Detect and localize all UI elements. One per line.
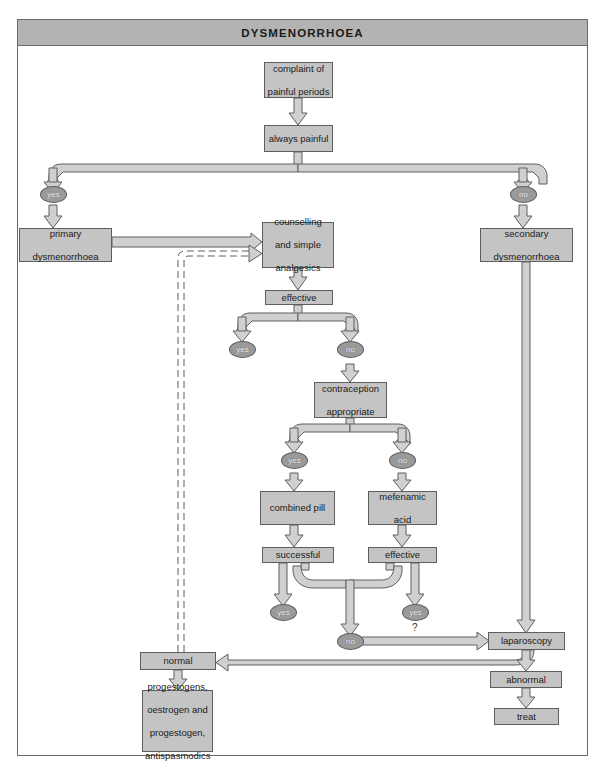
node-primary-dysmenorrhoea[interactable]: primarydysmenorrhoea [19, 228, 112, 262]
pill-no-merged[interactable]: no [337, 633, 364, 650]
contraception-line-2: appropriate [317, 406, 384, 418]
node-treat[interactable]: treat [494, 708, 559, 725]
prog-line-1: progestogens, [145, 681, 210, 693]
pill-yes-contraception-label: yes [288, 456, 300, 465]
effective1-label: effective [268, 292, 330, 304]
effective2-label: effective [371, 549, 434, 561]
complaint-line-1: complaint of [267, 63, 330, 75]
node-laparoscopy[interactable]: laparoscopy [488, 632, 565, 650]
pill-no-effective1[interactable]: no [337, 341, 364, 358]
pill-yes-always[interactable]: yes [40, 186, 67, 203]
prog-line-2: oestrogen and [145, 704, 210, 716]
normal-label: normal [143, 655, 213, 667]
contraception-line-1: contraception [317, 383, 384, 395]
question-mark-label: ? [412, 622, 418, 633]
node-complaint[interactable]: complaint ofpainful periods [264, 62, 333, 98]
pill-no-always[interactable]: no [510, 186, 537, 203]
node-successful[interactable]: successful [262, 547, 334, 563]
primary-line-2: dysmenorrhoea [22, 251, 109, 263]
pill-no-merged-label: no [346, 637, 355, 646]
always-painful-label: always painful [267, 133, 330, 145]
pill-yes-always-label: yes [47, 190, 59, 199]
node-progestogens[interactable]: progestogens,oestrogen andprogestogen,an… [142, 690, 213, 752]
complaint-line-2: painful periods [267, 86, 330, 98]
mefenamic-label: mefenamicacid [371, 491, 434, 526]
counselling-line-2: and simple [265, 239, 331, 251]
treat-label: treat [497, 711, 556, 723]
node-abnormal[interactable]: abnormal [490, 671, 562, 688]
node-contraception-appropriate[interactable]: contraceptionappropriate [314, 382, 387, 418]
pill-yes-contraception[interactable]: yes [281, 452, 308, 469]
pill-no-contraception[interactable]: no [389, 452, 416, 469]
counselling-label: counsellingand simpleanalgesics [265, 216, 331, 274]
pill-yes-effective2-label: yes [409, 608, 421, 617]
node-combined-pill[interactable]: combined pill [260, 491, 335, 525]
node-complaint-label: complaint ofpainful periods [267, 63, 330, 98]
node-counselling[interactable]: counsellingand simpleanalgesics [262, 222, 334, 268]
node-mefenamic-acid[interactable]: mefenamicacid [368, 491, 437, 525]
flowchart-page: DYSMENORRHOEA .pipe{fill:#d0d0d0;stroke:… [0, 0, 607, 771]
node-normal[interactable]: normal [140, 652, 216, 670]
pill-no-effective1-label: no [346, 345, 355, 354]
mefenamic-line-2: acid [371, 514, 434, 526]
pill-no-always-label: no [519, 190, 528, 199]
primary-line-1: primary [22, 228, 109, 240]
counselling-line-3: analgesics [265, 262, 331, 274]
secondary-line-1: secondary [483, 228, 570, 240]
combined-pill-label: combined pill [263, 502, 332, 514]
pill-yes-effective1-label: yes [236, 345, 248, 354]
page-title: DYSMENORRHOEA [18, 20, 587, 46]
prog-line-4: antispasmodics [145, 750, 210, 762]
question-mark-annotation: ? [412, 622, 418, 633]
pill-yes-successful-label: yes [277, 608, 289, 617]
counselling-line-1: counselling [265, 216, 331, 228]
node-effective-counselling[interactable]: effective [265, 290, 333, 305]
pill-yes-effective1[interactable]: yes [229, 341, 256, 358]
prog-line-3: progestogen, [145, 727, 210, 739]
successful-label: successful [265, 549, 331, 561]
laparoscopy-label: laparoscopy [491, 635, 562, 647]
node-secondary-dysmenorrhoea[interactable]: secondarydysmenorrhoea [480, 228, 573, 262]
pill-yes-effective2[interactable]: yes [402, 604, 429, 621]
secondary-label: secondarydysmenorrhoea [483, 228, 570, 263]
secondary-line-2: dysmenorrhoea [483, 251, 570, 263]
node-effective-mefenamic[interactable]: effective [368, 547, 437, 563]
mefenamic-line-1: mefenamic [371, 491, 434, 503]
contraception-label: contraceptionappropriate [317, 383, 384, 418]
pill-no-contraception-label: no [398, 456, 407, 465]
pill-yes-successful[interactable]: yes [270, 604, 297, 621]
node-always-painful[interactable]: always painful [264, 125, 333, 152]
abnormal-label: abnormal [493, 674, 559, 686]
progestogens-label: progestogens,oestrogen andprogestogen,an… [145, 681, 210, 762]
primary-label: primarydysmenorrhoea [22, 228, 109, 263]
